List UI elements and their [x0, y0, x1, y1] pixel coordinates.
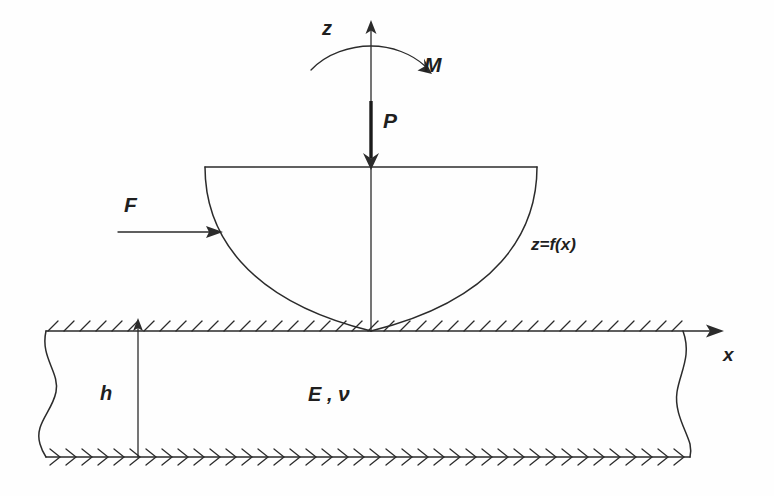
thickness-dimension-line: [133, 318, 143, 457]
x-axis-label: x: [723, 344, 734, 366]
layer-thickness-label: h: [100, 382, 112, 405]
normal-load-label: P: [383, 109, 397, 133]
material-properties-label: E , ν: [308, 382, 350, 406]
mechanics-diagram: z M P F z=f(x) x h E , ν: [0, 0, 774, 496]
break-line-icon: [39, 331, 57, 457]
youngs-modulus-symbol: E: [308, 383, 321, 405]
tangential-load-arrow: [118, 226, 223, 238]
poisson-ratio-symbol: ν: [338, 382, 350, 405]
z-axis: [366, 20, 377, 331]
z-axis-label: z: [322, 17, 332, 40]
tangential-load-label: F: [124, 193, 137, 217]
profile-function-label: z=f(x): [531, 235, 576, 255]
normal-load-arrow: [363, 101, 379, 170]
moment-label: M: [424, 53, 442, 77]
properties-separator: ,: [321, 383, 338, 405]
break-line-icon: [677, 331, 691, 457]
diagram-canvas: [0, 0, 774, 496]
